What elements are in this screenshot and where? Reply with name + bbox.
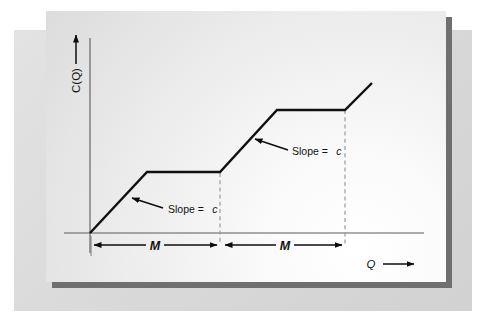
slope-1-leader-line <box>132 198 163 208</box>
dashed-guides-group <box>220 110 345 245</box>
dimension-span-1: M <box>91 236 217 256</box>
dim-1-label: M <box>150 239 161 253</box>
slope-annotation-2: Slope = c <box>255 139 342 158</box>
slope-1-symbol: c <box>212 203 218 215</box>
slope-1-text: Slope = c <box>168 199 218 216</box>
slope-annotation-1: Slope = c <box>132 198 218 216</box>
slope-2-leader-line <box>255 139 288 150</box>
axes-group: C(Q) Q <box>64 35 424 270</box>
cost-curve-group <box>90 83 372 233</box>
slope-2-prefix: Slope = <box>292 145 328 157</box>
y-axis-label: C(Q) <box>70 68 82 93</box>
slope-2-text: Slope = c <box>292 141 342 158</box>
slope-2-symbol: c <box>336 145 342 157</box>
dim-2-label: M <box>280 239 291 253</box>
plot-drawing-surface: C(Q) Q Slope = c Sl <box>0 0 488 323</box>
slope-1-prefix: Slope = <box>168 203 204 215</box>
x-axis-label: Q <box>367 258 376 270</box>
figure-root: C(Q) Q Slope = c Sl <box>0 0 488 323</box>
dimension-span-2: M <box>225 239 342 253</box>
cost-function-curve <box>90 83 372 233</box>
